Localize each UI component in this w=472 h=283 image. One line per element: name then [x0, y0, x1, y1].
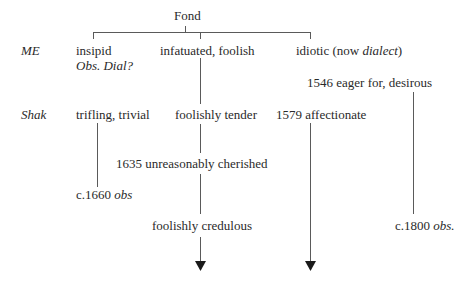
- root-word: Fond: [174, 8, 201, 23]
- c1800-obs: obs.: [433, 218, 454, 233]
- node-c1800: c.1800 obs.: [395, 218, 455, 233]
- row-label-me: ME: [21, 43, 40, 58]
- node-affectionate: 1579 affectionate: [276, 107, 366, 122]
- c1660-date: c.1660: [76, 187, 114, 202]
- node-idiotic: idiotic (now dialect): [296, 43, 402, 58]
- node-foolishly-tender: foolishly tender: [175, 107, 257, 122]
- node-infatuated: infatuated, foolish: [160, 43, 255, 58]
- node-cherished: 1635 unreasonably cherished: [116, 156, 268, 171]
- idiotic-close: ): [398, 43, 402, 58]
- idiotic-text: idiotic (now: [296, 43, 362, 58]
- node-credulous: foolishly credulous: [152, 218, 252, 233]
- idiotic-dialect: dialect: [362, 43, 397, 58]
- node-eager: 1546 eager for, desirous: [307, 75, 432, 90]
- node-insipid: insipid: [76, 43, 111, 58]
- node-c1660: c.1660 obs: [76, 187, 132, 202]
- c1800-date: c.1800: [395, 218, 433, 233]
- arrowhead-icon: [195, 261, 206, 271]
- node-trifling: trifling, trivial: [76, 107, 150, 122]
- node-insipid-note: Obs. Dial?: [76, 58, 133, 73]
- arrowhead-icon: [305, 261, 316, 271]
- c1660-obs: obs: [114, 187, 132, 202]
- row-label-shak: Shak: [21, 107, 46, 122]
